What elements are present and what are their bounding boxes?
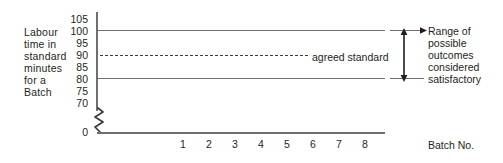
x-tick-6: 6 bbox=[306, 138, 320, 150]
agreed-standard-dashed-line bbox=[100, 55, 308, 56]
range-annotation-line-4: considered bbox=[428, 61, 479, 73]
range-annotation-line-3: outcomes bbox=[428, 49, 474, 61]
x-tick-2: 2 bbox=[202, 138, 216, 150]
range-leader-arrow-icon bbox=[416, 26, 428, 35]
range-annotation-line-5: satisfactory bbox=[428, 73, 481, 85]
y-tick-zero: 0 bbox=[60, 126, 88, 138]
y-axis-label-line-2: time in bbox=[24, 38, 56, 50]
y-axis-label-line-5: for a bbox=[24, 74, 46, 86]
control-chart-figure: Labour time in standard minutes for a Ba… bbox=[0, 0, 503, 163]
y-tick-100: 100 bbox=[60, 25, 88, 37]
y-tick-80: 80 bbox=[60, 73, 88, 85]
y-tick-75: 75 bbox=[60, 85, 88, 97]
agreed-standard-label: agreed standard bbox=[312, 51, 388, 63]
x-tick-7: 7 bbox=[332, 138, 346, 150]
y-tick-85: 85 bbox=[60, 61, 88, 73]
upper-control-limit-line bbox=[97, 30, 385, 31]
y-axis-label-line-1: Labour bbox=[24, 26, 58, 38]
range-annotation-line-1: Range of bbox=[428, 25, 471, 37]
y-tick-70: 70 bbox=[60, 97, 88, 109]
axis-break-icon bbox=[92, 107, 110, 134]
lower-control-limit-line bbox=[97, 78, 385, 79]
y-tick-95: 95 bbox=[60, 37, 88, 49]
y-tick-105: 105 bbox=[60, 13, 88, 25]
x-tick-5: 5 bbox=[280, 138, 294, 150]
x-axis-title: Batch No. bbox=[428, 139, 474, 151]
x-axis-line bbox=[97, 132, 385, 134]
y-axis-line-upper bbox=[96, 12, 98, 111]
x-tick-3: 3 bbox=[228, 138, 242, 150]
x-tick-8: 8 bbox=[358, 138, 372, 150]
x-tick-4: 4 bbox=[254, 138, 268, 150]
range-double-arrow-icon bbox=[398, 28, 410, 82]
x-tick-1: 1 bbox=[176, 138, 190, 150]
y-axis-label-line-4: minutes bbox=[24, 62, 62, 74]
range-annotation-line-2: possible bbox=[428, 37, 467, 49]
y-axis-label-line-6: Batch bbox=[24, 86, 52, 98]
y-tick-90: 90 bbox=[60, 49, 88, 61]
